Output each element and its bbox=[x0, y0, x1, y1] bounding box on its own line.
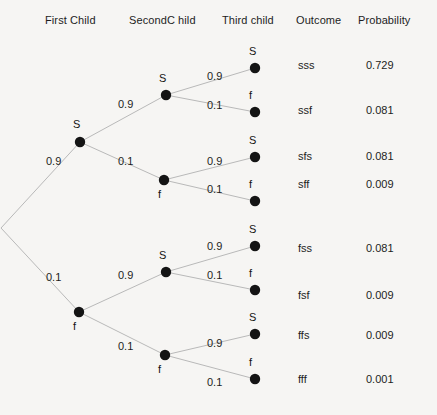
edge-probability-el-f-ff: 0.1 bbox=[118, 340, 133, 352]
tree-node-n-fsf[interactable] bbox=[250, 285, 260, 295]
edge-probability-el-fs-fss: 0.9 bbox=[207, 240, 222, 252]
tree-node-n-sfs[interactable] bbox=[250, 152, 260, 162]
outcome-value: ssf bbox=[298, 104, 312, 116]
tree-node-n-ssf[interactable] bbox=[250, 107, 260, 117]
outcome-value: fsf bbox=[298, 289, 310, 301]
node-symbol-n-f: f bbox=[73, 320, 76, 332]
node-symbol-n-sss: S bbox=[249, 45, 256, 57]
node-symbol-n-fff: f bbox=[249, 356, 252, 368]
edge-probability-el-ff-fff: 0.1 bbox=[207, 376, 222, 388]
edge-probability-el-f-fs: 0.9 bbox=[118, 269, 133, 281]
tree-node-n-fff[interactable] bbox=[250, 374, 260, 384]
tree-node-n-f[interactable] bbox=[74, 307, 84, 317]
outcome-value: fss bbox=[298, 242, 312, 254]
probability-value: 0.729 bbox=[366, 59, 394, 71]
probability-value: 0.009 bbox=[366, 289, 394, 301]
edge-probability-el-s-ss: 0.9 bbox=[118, 98, 133, 110]
column-header: SecondC hild bbox=[129, 14, 196, 26]
probability-value: 0.081 bbox=[366, 242, 394, 254]
edge-probability-el-ff-ffs: 0.9 bbox=[207, 337, 222, 349]
node-symbol-n-fs: S bbox=[159, 249, 166, 261]
column-header: Outcome bbox=[296, 14, 341, 26]
tree-node-n-fss[interactable] bbox=[250, 241, 260, 251]
tree-node-n-ff[interactable] bbox=[160, 350, 170, 360]
edge-probability-el-sf-sff: 0.1 bbox=[207, 183, 222, 195]
edge-probability-el-s-sf: 0.1 bbox=[118, 155, 133, 167]
edge-probability-el-ss-sss: 0.9 bbox=[207, 70, 222, 82]
tree-node-n-fs[interactable] bbox=[161, 267, 171, 277]
node-symbol-n-ff: f bbox=[158, 363, 161, 375]
outcome-value: fff bbox=[298, 373, 307, 385]
tree-edge bbox=[1, 142, 80, 228]
edge-probability-el-sf-sfs: 0.9 bbox=[207, 155, 222, 167]
node-symbol-n-sf: f bbox=[158, 188, 161, 200]
probability-value: 0.081 bbox=[366, 104, 394, 116]
probability-value: 0.001 bbox=[366, 373, 394, 385]
outcome-value: sss bbox=[298, 59, 315, 71]
outcome-value: sfs bbox=[298, 150, 312, 162]
edge-probability-el-root-f: 0.1 bbox=[46, 271, 61, 283]
node-symbol-n-fsf: f bbox=[249, 267, 252, 279]
tree-edge bbox=[1, 228, 79, 312]
probability-value: 0.009 bbox=[366, 329, 394, 341]
probability-tree-diagram: First ChildSecondC hildThird childOutcom… bbox=[0, 0, 437, 415]
node-symbol-n-ssf: f bbox=[249, 89, 252, 101]
tree-node-n-sf[interactable] bbox=[159, 175, 169, 185]
tree-node-n-s[interactable] bbox=[75, 137, 85, 147]
column-header: Probability bbox=[358, 14, 410, 26]
node-symbol-n-fss: S bbox=[249, 223, 256, 235]
edge-probability-el-fs-fsf: 0.1 bbox=[207, 269, 222, 281]
node-symbol-n-ss: S bbox=[159, 72, 166, 84]
tree-node-n-sss[interactable] bbox=[250, 63, 260, 73]
probability-value: 0.009 bbox=[366, 178, 394, 190]
column-header: First Child bbox=[45, 14, 96, 26]
column-header: Third child bbox=[222, 14, 274, 26]
edge-probability-el-ss-ssf: 0.1 bbox=[207, 99, 222, 111]
node-symbol-n-s: S bbox=[73, 118, 80, 130]
edge-probability-el-root-s: 0.9 bbox=[46, 155, 61, 167]
probability-value: 0.081 bbox=[366, 150, 394, 162]
outcome-value: sff bbox=[298, 178, 309, 190]
node-symbol-n-sff: f bbox=[249, 178, 252, 190]
tree-node-n-sff[interactable] bbox=[250, 196, 260, 206]
outcome-value: ffs bbox=[298, 329, 309, 341]
tree-node-n-ss[interactable] bbox=[161, 90, 171, 100]
node-symbol-n-sfs: S bbox=[249, 134, 256, 146]
node-symbol-n-ffs: S bbox=[249, 311, 256, 323]
tree-node-n-ffs[interactable] bbox=[250, 329, 260, 339]
